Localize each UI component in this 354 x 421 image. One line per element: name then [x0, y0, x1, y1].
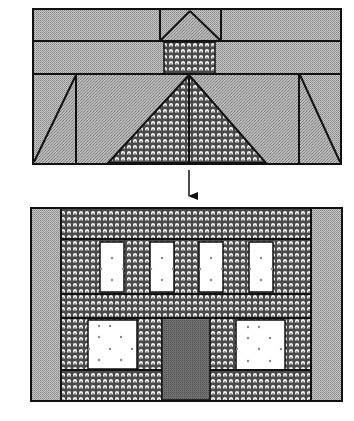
lower-window-right: [236, 320, 285, 370]
upper-window-1: [100, 242, 124, 292]
upper-window-4: [249, 242, 273, 292]
top-panel: [33, 9, 341, 164]
door: [162, 318, 210, 400]
right-column: [311, 209, 341, 400]
lower-window-left: [88, 320, 137, 369]
left-column: [32, 209, 61, 400]
diagram-canvas: Facade transformation: pyramidal/gabled …: [0, 0, 354, 421]
chimney-block: [164, 42, 215, 74]
upper-window-2: [150, 242, 174, 292]
facade-transformation-diagram: [0, 0, 354, 421]
upper-window-3: [199, 242, 223, 292]
bottom-panel: [31, 208, 342, 401]
